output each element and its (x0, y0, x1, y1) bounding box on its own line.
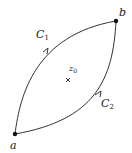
z0-marker-icon (66, 78, 70, 82)
contour-c2 (15, 21, 116, 134)
label-c2: C2 (101, 97, 114, 111)
label-a: a (10, 139, 17, 152)
point-a (13, 132, 17, 136)
label-b: b (119, 6, 126, 19)
arrow-c1-icon (43, 48, 48, 54)
contour-diagram: a b C1 C2 z0 (0, 0, 132, 153)
contour-c1 (15, 21, 116, 134)
label-c1: C1 (36, 28, 49, 42)
point-b (114, 19, 118, 23)
label-z0: z0 (68, 64, 77, 74)
